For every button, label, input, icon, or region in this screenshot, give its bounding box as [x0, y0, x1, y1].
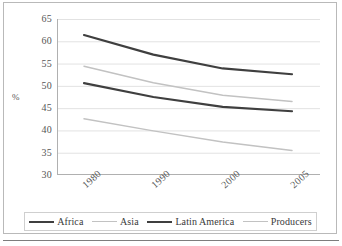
x-axis-tick-labels: 1980199020002005 [57, 176, 320, 206]
series-line-africa [84, 35, 292, 74]
footer-rule [3, 240, 339, 241]
y-axis-tick-labels: 6560555045403530 [28, 19, 52, 175]
legend-item-africa[interactable]: Africa [29, 216, 83, 227]
legend-item-latin-america[interactable]: Latin America [147, 216, 234, 227]
chart-legend: AfricaAsiaLatin AmericaProducers [24, 212, 317, 231]
y-axis-tick-label: 40 [30, 125, 52, 135]
legend-line-swatch [243, 221, 268, 222]
y-axis-title: % [12, 92, 20, 102]
series-line-producers [84, 119, 292, 151]
series-line-latin-america [84, 83, 292, 111]
legend-line-swatch [29, 221, 54, 223]
y-axis-tick-label: 60 [30, 36, 52, 46]
y-axis-tick-label: 50 [30, 81, 52, 91]
legend-item-label: Producers [271, 216, 312, 227]
y-axis-tick-label: 35 [30, 148, 52, 158]
y-axis-tick-label: 55 [30, 59, 52, 69]
chart-canvas [57, 19, 320, 175]
legend-item-label: Africa [57, 216, 83, 227]
legend-item-producers[interactable]: Producers [243, 216, 312, 227]
legend-line-swatch [147, 221, 172, 223]
y-axis-tick-label: 65 [30, 14, 52, 24]
legend-item-label: Latin America [175, 216, 234, 227]
legend-item-asia[interactable]: Asia [92, 216, 139, 227]
plot-area [57, 19, 320, 175]
legend-item-label: Asia [120, 216, 139, 227]
y-axis-tick-label: 45 [30, 103, 52, 113]
chart-page: % 6560555045403530 1980199020002005 Afri… [0, 0, 342, 246]
y-axis-tick-label: 30 [30, 170, 52, 180]
legend-line-swatch [92, 221, 117, 222]
